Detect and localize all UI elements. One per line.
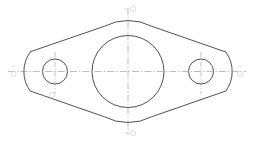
marker-lower-left — [43, 92, 55, 97]
marker-top — [124, 6, 136, 11]
drawing-svg — [0, 0, 254, 143]
marker-bottom — [124, 130, 136, 135]
technical-drawing-canvas — [0, 0, 254, 143]
